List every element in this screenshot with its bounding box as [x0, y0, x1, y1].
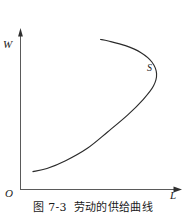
figure-caption-number: 图 7-3 — [33, 201, 67, 214]
plot-svg — [0, 0, 186, 196]
figure-container: W O L S 图 7-3劳动的供给曲线 — [0, 0, 186, 218]
wage-axis-label: W — [3, 39, 12, 50]
labor-supply-curve — [33, 39, 157, 171]
wage-axis-arrowhead — [18, 28, 23, 37]
figure-caption: 图 7-3劳动的供给曲线 — [0, 198, 186, 214]
supply-curve-label: S — [147, 63, 152, 73]
figure-caption-title: 劳动的供给曲线 — [74, 201, 153, 214]
plot-area — [0, 0, 186, 196]
